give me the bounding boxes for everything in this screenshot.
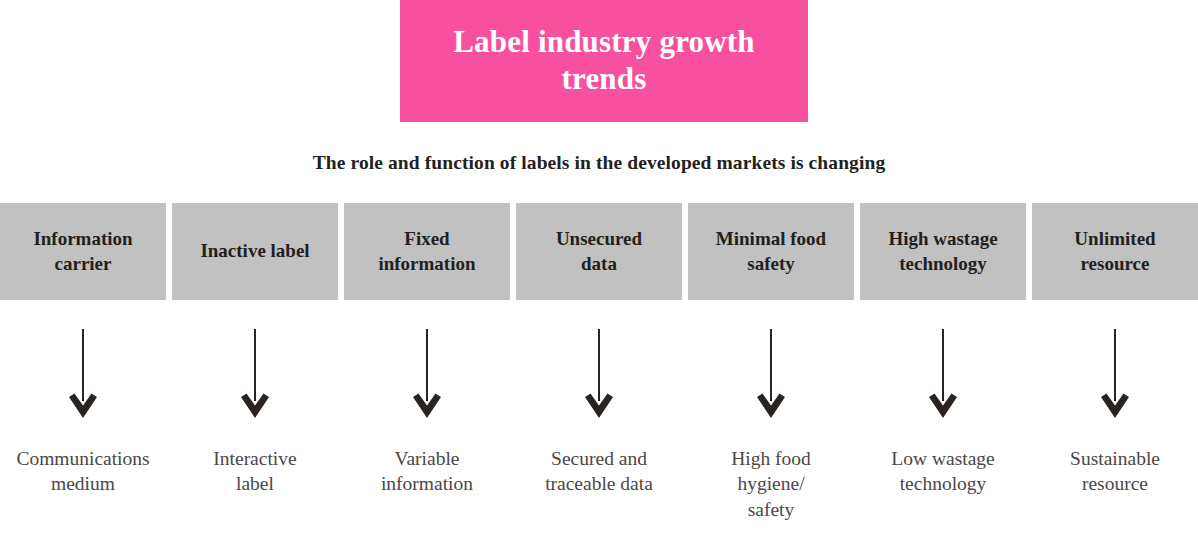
stage-box-3: Fixed information (344, 203, 510, 300)
stage-box-label-5: Minimal food safety (716, 227, 826, 276)
transition-column-7: Unlimited resource Sustainable resource (1032, 203, 1198, 522)
down-arrow-icon (923, 329, 963, 418)
transition-columns: Information carrier Communications mediu… (0, 203, 1198, 522)
down-arrow-icon (235, 329, 275, 418)
stage-box-5: Minimal food safety (688, 203, 854, 300)
stage-box-label-2: Inactive label (200, 239, 309, 263)
page-title: Label industry growth trends (418, 24, 790, 97)
title-banner: Label industry growth trends (400, 0, 808, 122)
stage-box-label-4: Unsecured data (556, 227, 642, 276)
down-arrow-icon (63, 329, 103, 418)
stage-box-label-7: Unlimited resource (1074, 227, 1155, 276)
stage-box-label-1: Information carrier (33, 227, 132, 276)
stage-box-1: Information carrier (0, 203, 166, 300)
stage-box-label-6: High wastage technology (888, 227, 997, 276)
outcome-label-7: Sustainable resource (1066, 446, 1164, 497)
outcome-label-1: Communications medium (12, 446, 153, 497)
outcome-label-2: Interactive label (209, 446, 300, 497)
outcome-label-4: Secured and traceable data (541, 446, 657, 497)
transition-column-1: Information carrier Communications mediu… (0, 203, 166, 522)
outcome-label-3: Variable information (377, 446, 477, 497)
transition-column-4: Unsecured data Secured and traceable dat… (516, 203, 682, 522)
subtitle-text: The role and function of labels in the d… (0, 152, 1198, 174)
transition-column-6: High wastage technology Low wastage tech… (860, 203, 1026, 522)
down-arrow-icon (407, 329, 447, 418)
stage-box-7: Unlimited resource (1032, 203, 1198, 300)
outcome-label-6: Low wastage technology (887, 446, 998, 497)
stage-box-label-3: Fixed information (378, 227, 475, 276)
down-arrow-icon (1095, 329, 1135, 418)
stage-box-6: High wastage technology (860, 203, 1026, 300)
down-arrow-icon (751, 329, 791, 418)
stage-box-2: Inactive label (172, 203, 338, 300)
stage-box-4: Unsecured data (516, 203, 682, 300)
down-arrow-icon (579, 329, 619, 418)
outcome-label-5: High food hygiene/ safety (727, 446, 815, 522)
transition-column-3: Fixed information Variable information (344, 203, 510, 522)
transition-column-5: Minimal food safety High food hygiene/ s… (688, 203, 854, 522)
transition-column-2: Inactive label Interactive label (172, 203, 338, 522)
